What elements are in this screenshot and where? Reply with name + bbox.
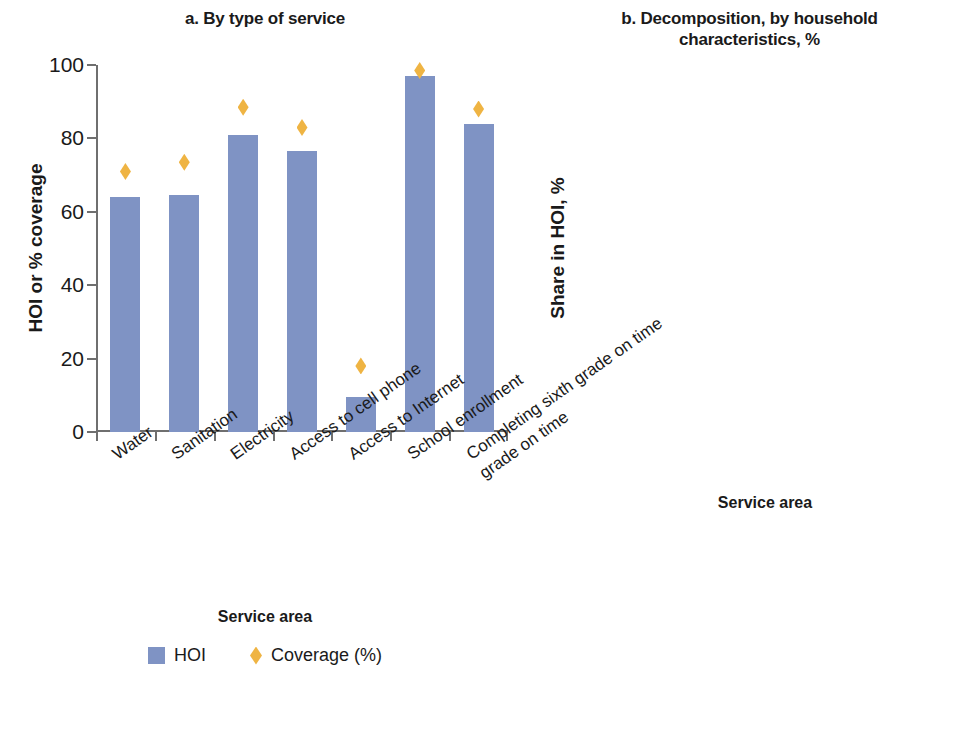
panel-a-bar-1	[169, 195, 199, 432]
panel-a-y-axis-label: HOI or % coverage	[25, 148, 47, 348]
panel-a-y-tick-label: 80	[22, 127, 84, 148]
panel-a-y-tick-label: 0	[22, 421, 84, 442]
panel-b-title-line-1: b. Decomposition, by household	[530, 8, 969, 29]
panel-a-coverage-marker-2	[238, 99, 249, 116]
legend-label-hoi: HOI	[174, 645, 206, 666]
panel-a-y-tick-label: 60	[22, 201, 84, 222]
panel-a-x-axis-title: Service area	[0, 608, 530, 626]
panel-a-by-type-of-service: a. By type of service HOI or % coverage …	[0, 0, 530, 735]
panel-b-x-axis-title: Service area	[580, 494, 950, 512]
panel-a-y-tick-label: 100	[22, 54, 84, 75]
legend-item-coverage: Coverage (%)	[250, 645, 382, 666]
panel-a-x-tick-0	[96, 432, 98, 441]
panel-a-title: a. By type of service	[0, 8, 530, 29]
panel-a-coverage-marker-4	[355, 357, 366, 374]
panel-a-coverage-marker-3	[297, 119, 308, 136]
panel-a-legend: HOI Coverage (%)	[0, 645, 530, 666]
panel-b-title-line-2: characteristics, %	[530, 29, 969, 50]
panel-a-y-tick	[87, 137, 96, 139]
panel-a-y-tick	[87, 284, 96, 286]
panel-a-y-tick	[87, 358, 96, 360]
panel-a-y-tick-label: 40	[22, 274, 84, 295]
legend-label-coverage: Coverage (%)	[271, 645, 382, 666]
panel-a-coverage-marker-1	[179, 154, 190, 171]
panel-a-bar-0	[110, 197, 140, 432]
panel-a-bar-3	[287, 151, 317, 432]
panel-a-coverage-marker-0	[120, 163, 131, 180]
panel-a-y-tick	[87, 64, 96, 66]
figure-root: a. By type of service HOI or % coverage …	[0, 0, 969, 735]
legend-item-hoi: HOI	[148, 645, 206, 666]
coverage-diamond-marker-icon	[250, 647, 262, 665]
panel-a-coverage-marker-6	[473, 101, 484, 118]
panel-a-y-tick	[87, 211, 96, 213]
panel-b-title: b. Decomposition, by household character…	[530, 8, 969, 50]
panel-a-bar-2	[228, 135, 258, 432]
panel-b-decomposition: b. Decomposition, by household character…	[530, 0, 969, 735]
panel-a-y-tick	[87, 431, 96, 433]
hoi-color-swatch-icon	[148, 647, 165, 664]
panel-b-y-axis-label: Share in HOI, %	[547, 148, 569, 348]
panel-a-y-axis-line	[96, 65, 98, 432]
panel-a-y-tick-label: 20	[22, 348, 84, 369]
